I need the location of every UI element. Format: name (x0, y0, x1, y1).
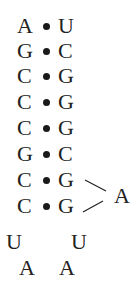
bulge-base: A (114, 185, 130, 207)
loop-left-a: A (19, 257, 35, 279)
loop-right-u: U (71, 231, 87, 253)
loop-right-a: A (59, 257, 75, 279)
loop-left-u: U (6, 231, 22, 253)
